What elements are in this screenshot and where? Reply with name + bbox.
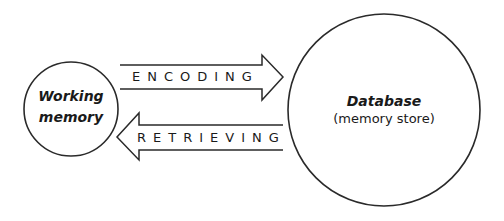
encoding-label: ENCODING	[132, 69, 259, 85]
working-memory-label: Working memory	[24, 86, 118, 128]
working-memory-label-line1: Working	[24, 86, 118, 107]
retrieving-label: RETRIEVING	[137, 130, 286, 146]
database-subtitle: (memory store)	[288, 110, 480, 128]
memory-diagram: Working memory Database (memory store) E…	[0, 0, 504, 221]
database-title: Database	[288, 92, 480, 110]
working-memory-label-line2: memory	[24, 107, 118, 128]
